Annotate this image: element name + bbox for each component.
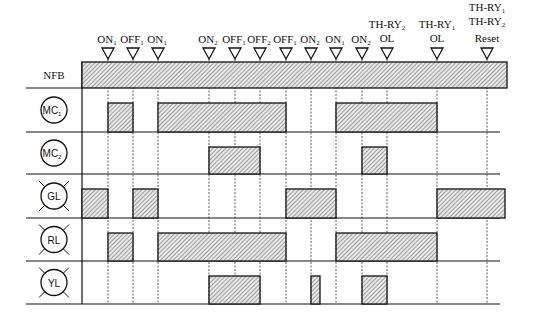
event-marker: ON1 [97,33,117,59]
event-marker: ON2 [351,33,371,59]
lamp-ray-icon [39,181,45,187]
event-label: TH-RY1 [469,1,506,15]
lamp-ray-icon [63,292,69,298]
event-label: OL [380,32,395,44]
triangle-marker-icon [305,48,317,59]
lamp-ray-icon [39,205,45,211]
event-marker: OFF1 [222,33,246,59]
event-label: OFF2 [247,33,271,47]
row-name: YL [48,278,61,289]
event-label: ON1 [97,33,117,47]
triangle-marker-icon [102,48,114,59]
event-label: ON2 [198,33,218,47]
row-labels: NFBMC1MC2GLRLYL [39,69,69,298]
triangle-marker-icon [381,48,393,59]
signal-on-segment [158,233,286,261]
signal-on-segment [311,276,320,304]
event-marker: ON1 [325,33,345,59]
event-marker: TH-RY2OL [369,18,406,59]
signal-on-segment [286,189,336,218]
signal-on-segment [336,103,437,132]
signal-rows [26,62,507,304]
signal-on-segment [158,103,286,132]
triangle-marker-icon [254,48,266,59]
triangle-marker-icon [481,48,493,59]
event-marker: OFF2 [247,33,271,59]
row-label-nfb: NFB [43,69,64,81]
event-marker: ON2 [300,33,320,59]
event-label: ON1 [325,33,345,47]
lamp-ray-icon [63,181,69,187]
event-marker: ON1 [147,33,167,59]
lamp-ray-icon [39,292,45,298]
row-label-gl: GL [39,181,69,211]
signal-on-segment [362,147,387,174]
signal-on-segment [336,233,437,261]
event-marker: TH-RY1TH-RY2Reset [469,1,506,59]
event-marker: OFF1 [120,33,144,59]
triangle-marker-icon [280,48,292,59]
event-marker: TH-RY1OL [419,18,456,59]
triangle-marker-icon [431,48,443,59]
event-label: OFF1 [222,33,246,47]
event-label: ON2 [351,33,371,47]
event-label: TH-RY2 [369,18,406,32]
row-label-mc1: MC1 [41,97,67,123]
triangle-marker-icon [203,48,215,59]
signal-on-segment [437,189,505,218]
signal-on-segment [108,233,133,261]
triangle-marker-icon [152,48,164,59]
event-label: OFF1 [273,33,297,47]
timing-diagram: ON1OFF1ON1ON2OFF1OFF2OFF1ON2ON1ON2TH-RY2… [0,0,536,325]
event-guide-lines [108,59,487,304]
row-label-rl: RL [39,225,69,255]
lamp-ray-icon [63,225,69,231]
signal-on-segment [82,189,108,218]
event-label: TH-RY2 [469,15,506,29]
lamp-ray-icon [63,205,69,211]
triangle-marker-icon [356,48,368,59]
event-label: Reset [475,32,499,44]
signal-on-segment [209,276,260,304]
row-name: RL [48,235,61,246]
triangle-marker-icon [229,48,241,59]
signal-on-segment [133,189,158,218]
row-label-mc2: MC2 [41,140,67,166]
lamp-ray-icon [39,268,45,274]
row-label-yl: YL [39,268,69,298]
event-label: TH-RY1 [419,18,456,32]
triangle-marker-icon [127,48,139,59]
lamp-ray-icon [39,225,45,231]
signal-on-segment [108,103,133,132]
signal-on-segment [362,276,387,304]
event-marker: ON2 [198,33,218,59]
signal-on-segment [82,62,507,88]
event-marker: OFF1 [273,33,297,59]
lamp-ray-icon [63,268,69,274]
event-labels: ON1OFF1ON1ON2OFF1OFF2OFF1ON2ON1ON2TH-RY2… [97,1,505,59]
row-name: NFB [43,69,64,81]
event-label: OFF1 [120,33,144,47]
signal-on-segment [209,147,260,174]
lamp-ray-icon [39,249,45,255]
event-label: ON1 [147,33,167,47]
event-label: OL [430,32,445,44]
lamp-ray-icon [63,249,69,255]
event-label: ON2 [300,33,320,47]
triangle-marker-icon [330,48,342,59]
row-name: GL [47,191,61,202]
